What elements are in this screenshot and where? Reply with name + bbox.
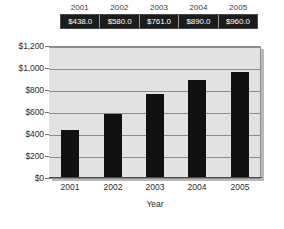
data-table-header-cell: 2003 — [139, 2, 179, 14]
y-axis-tick-mark — [45, 134, 49, 135]
bar-chart-figure: 2001 2002 2003 2004 2005 $438.0 $580.0 $… — [0, 0, 284, 229]
bar-2001 — [61, 130, 79, 178]
y-axis-tick-label: $200 — [0, 151, 44, 161]
bar-2002 — [104, 114, 122, 178]
x-axis-tick-label: 2004 — [177, 182, 217, 192]
y-axis-tick-label: $600 — [0, 107, 44, 117]
x-axis-tick-label: 2001 — [50, 182, 90, 192]
data-table-value-cell: $890.0 — [179, 15, 218, 28]
y-axis-tick-mark — [45, 178, 49, 179]
y-axis-tick-mark — [45, 68, 49, 69]
data-table-value-cell: $438.0 — [61, 15, 100, 28]
y-axis-tick-label: $0 — [0, 173, 44, 183]
x-axis-tick-label: 2005 — [220, 182, 260, 192]
data-table-value-cell: $960.0 — [219, 15, 257, 28]
x-axis-labels: 20012002200320042005 — [49, 182, 261, 196]
bars-layer — [49, 47, 260, 178]
x-axis-title: Year — [49, 199, 261, 209]
y-axis-tick-mark — [45, 90, 49, 91]
bar-2005 — [231, 72, 249, 178]
gridline — [49, 178, 260, 179]
y-axis-tick-mark — [45, 112, 49, 113]
bar-2004 — [188, 80, 206, 178]
data-table: 2001 2002 2003 2004 2005 $438.0 $580.0 $… — [60, 2, 258, 29]
plot-area — [49, 46, 261, 178]
y-axis-tick-label: $1,000 — [0, 63, 44, 73]
data-table-header-cell: 2002 — [100, 2, 140, 14]
data-table-header-cell: 2004 — [179, 2, 219, 14]
y-axis-tick-label: $800 — [0, 85, 44, 95]
x-axis-tick-label: 2003 — [135, 182, 175, 192]
x-axis-tick-label: 2002 — [93, 182, 133, 192]
data-table-value-row: $438.0 $580.0 $761.0 $890.0 $960.0 — [60, 14, 258, 29]
x-axis-line — [49, 177, 262, 178]
data-table-header-cell: 2005 — [218, 2, 258, 14]
bar-2003 — [146, 94, 164, 178]
data-table-header-cell: 2001 — [60, 2, 100, 14]
data-table-header-row: 2001 2002 2003 2004 2005 — [60, 2, 258, 14]
y-axis-tick-label: $400 — [0, 129, 44, 139]
data-table-value-cell: $761.0 — [140, 15, 179, 28]
y-axis-tick-mark — [45, 156, 49, 157]
y-axis-tick-mark — [45, 46, 49, 47]
y-axis-tick-label: $1,200 — [0, 41, 44, 51]
data-table-value-cell: $580.0 — [100, 15, 139, 28]
